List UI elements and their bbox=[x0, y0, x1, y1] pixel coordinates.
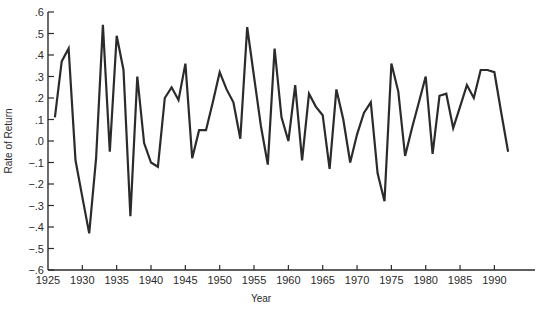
x-tick-label: 1945 bbox=[173, 274, 197, 286]
x-tick-label: 1970 bbox=[345, 274, 369, 286]
y-tick-label: .2 bbox=[35, 92, 44, 104]
y-tick-label: .3 bbox=[35, 71, 44, 83]
x-tick-label: 1955 bbox=[242, 274, 266, 286]
y-tick-label: −.3 bbox=[28, 200, 44, 212]
x-tick-label: 1960 bbox=[276, 274, 300, 286]
rate-of-return-line bbox=[55, 25, 508, 234]
x-axis: 1925193019351940194519501955196019651970… bbox=[36, 265, 535, 286]
y-tick-label: −.4 bbox=[28, 221, 44, 233]
y-tick-label: −.5 bbox=[28, 243, 44, 255]
y-tick-label: .0 bbox=[35, 135, 44, 147]
y-tick-label: .5 bbox=[35, 28, 44, 40]
x-tick-label: 1925 bbox=[36, 274, 60, 286]
line-chart: .6.5.4.3.2.1.0−.1−.2−.3−.4−.5−.6 1925193… bbox=[0, 0, 543, 313]
y-tick-label: −.1 bbox=[28, 157, 44, 169]
y-axis: .6.5.4.3.2.1.0−.1−.2−.3−.4−.5−.6 bbox=[28, 6, 54, 276]
y-axis-title: Rate of Return bbox=[3, 108, 14, 173]
x-tick-label: 1990 bbox=[482, 274, 506, 286]
y-tick-label: .4 bbox=[35, 49, 44, 61]
x-axis-title: Year bbox=[251, 293, 272, 304]
y-tick-label: −.2 bbox=[28, 178, 44, 190]
x-tick-label: 1985 bbox=[448, 274, 472, 286]
x-tick-label: 1965 bbox=[310, 274, 334, 286]
x-tick-label: 1930 bbox=[70, 274, 94, 286]
x-tick-label: 1935 bbox=[104, 274, 128, 286]
x-tick-label: 1950 bbox=[207, 274, 231, 286]
x-tick-label: 1940 bbox=[139, 274, 163, 286]
y-tick-label: .1 bbox=[35, 114, 44, 126]
x-tick-label: 1975 bbox=[379, 274, 403, 286]
y-tick-label: .6 bbox=[35, 6, 44, 18]
x-tick-label: 1980 bbox=[413, 274, 437, 286]
